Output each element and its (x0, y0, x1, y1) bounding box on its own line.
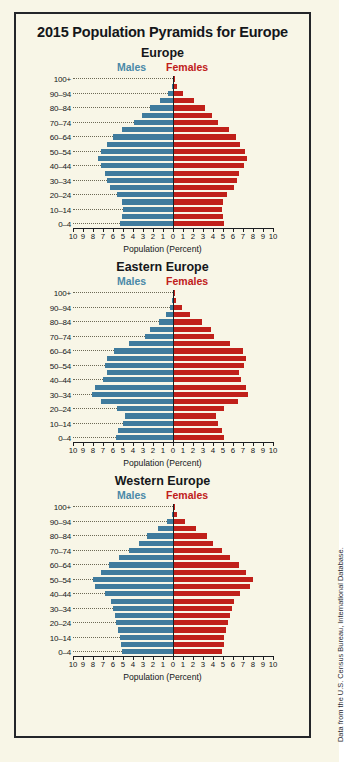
x-axis-tick (103, 442, 104, 446)
female-bar (174, 84, 177, 89)
age-band-row: 10–14 (27, 634, 298, 640)
x-axis-tick (123, 656, 124, 660)
age-band-label: 50–54 (50, 575, 71, 584)
age-band-row: 60–64 (27, 348, 298, 354)
x-axis-tick (243, 442, 244, 446)
x-axis-tick-label: 6 (231, 446, 235, 455)
male-bar (115, 613, 173, 618)
x-axis-tick-label: 8 (91, 446, 95, 455)
female-bar (174, 356, 246, 361)
x-axis-tick-label: 10 (269, 446, 278, 455)
legend: MalesFemales (16, 61, 309, 73)
age-band-label: 30–34 (50, 390, 71, 399)
x-axis-tick (133, 228, 134, 232)
x-axis-tick (223, 228, 224, 232)
x-axis-tick-label: 1 (181, 446, 185, 455)
female-bar (174, 526, 196, 531)
male-bar (122, 649, 173, 654)
female-bar (174, 620, 228, 625)
x-axis-tick-label: 5 (121, 660, 125, 669)
leader-line (73, 408, 117, 410)
leader-line (73, 365, 105, 367)
male-bar (159, 319, 173, 324)
female-bar (174, 421, 218, 426)
male-bar (134, 120, 173, 125)
male-bar (158, 526, 173, 531)
female-bar (174, 406, 224, 411)
x-axis-tick-label: 4 (211, 660, 215, 669)
male-bar (123, 421, 173, 426)
leader-line (73, 350, 114, 352)
x-axis: 10987654321012345678910 (27, 442, 298, 460)
x-axis-tick-label: 10 (269, 232, 278, 241)
x-axis-tick-label: 7 (101, 232, 105, 241)
x-axis-tick-label: 10 (69, 660, 78, 669)
x-axis-tick-label: 5 (221, 660, 225, 669)
x-axis-tick-label: 9 (81, 660, 85, 669)
leader-line (73, 194, 117, 196)
male-bar (110, 185, 173, 190)
x-axis-tick (73, 442, 74, 446)
female-bar (174, 348, 243, 353)
leader-line (73, 336, 145, 338)
female-bar (174, 649, 222, 654)
age-band-label: 100+ (54, 289, 71, 298)
age-band-row: 30–34 (27, 391, 298, 397)
leader-line (73, 180, 107, 182)
x-axis-tick (113, 442, 114, 446)
x-axis-tick (213, 656, 214, 660)
age-band-row (27, 341, 298, 347)
female-bar (174, 635, 224, 640)
x-axis-tick-label: 10 (269, 660, 278, 669)
female-bar (174, 290, 175, 295)
x-axis-tick (93, 656, 94, 660)
female-bar (174, 377, 241, 382)
age-band-label: 50–54 (50, 147, 71, 156)
x-axis-tick (73, 228, 74, 232)
female-bar (174, 149, 245, 154)
x-axis-tick (263, 442, 264, 446)
age-band-row: 90–94 (27, 90, 298, 96)
male-bar (105, 591, 173, 596)
age-band-row: 30–34 (27, 605, 298, 611)
male-bar (107, 370, 173, 375)
age-band-label: 90–94 (50, 89, 71, 98)
x-axis-tick-label: 8 (251, 660, 255, 669)
x-axis-tick (143, 442, 144, 446)
x-axis-tick-label: 8 (91, 232, 95, 241)
leader-line (73, 423, 123, 425)
female-bar (174, 627, 226, 632)
bar-rows: 0–410–1420–2430–3440–4450–5460–6470–7480… (27, 504, 298, 656)
panel-title: Western Europe (16, 474, 309, 488)
male-bar (120, 221, 173, 226)
leader-line (73, 165, 101, 167)
age-band-row (27, 112, 298, 118)
female-bar (174, 541, 213, 546)
x-axis-tick (263, 656, 264, 660)
female-bar (174, 577, 253, 582)
x-axis-tick-label: 7 (241, 660, 245, 669)
legend: MalesFemales (16, 275, 309, 287)
x-axis-tick-label: 5 (221, 232, 225, 241)
female-bar (174, 98, 194, 103)
panel-eastern-europe: Eastern Europe MalesFemales 0–410–1420–2… (16, 260, 309, 468)
age-band-row (27, 584, 298, 590)
age-band-row (27, 370, 298, 376)
x-axis-tick-label: 8 (91, 660, 95, 669)
age-band-row (27, 627, 298, 633)
age-band-row (27, 598, 298, 604)
female-bar (174, 642, 224, 647)
x-axis-tick (263, 228, 264, 232)
legend-males-label: Males (117, 275, 146, 287)
age-band-label: 40–44 (50, 162, 71, 171)
male-bar (129, 548, 173, 553)
male-bar (119, 555, 173, 560)
source-note: Data from the U.S. Census Bureau, Intern… (326, 496, 338, 746)
x-axis-tick-label: 3 (201, 660, 205, 669)
age-band-row (27, 540, 298, 546)
age-band-row: 50–54 (27, 148, 298, 154)
female-bar (174, 199, 223, 204)
x-axis-tick-label: 8 (251, 446, 255, 455)
age-band-row (27, 613, 298, 619)
x-axis-tick (113, 228, 114, 232)
